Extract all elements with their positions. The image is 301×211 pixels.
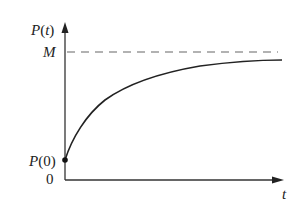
x-axis-arrow-icon [272, 177, 284, 184]
y-axis-label: P(t) [30, 22, 54, 39]
y-axis-arrow-icon [62, 22, 69, 33]
origin-label: 0 [46, 171, 54, 187]
chart: P(t) M P(0) 0 t [0, 0, 301, 211]
asymptote-label: M [42, 44, 57, 60]
initial-point [62, 157, 68, 163]
curve [65, 60, 282, 160]
initial-value-label: P(0) [28, 153, 56, 170]
x-axis-label: t [282, 186, 287, 202]
